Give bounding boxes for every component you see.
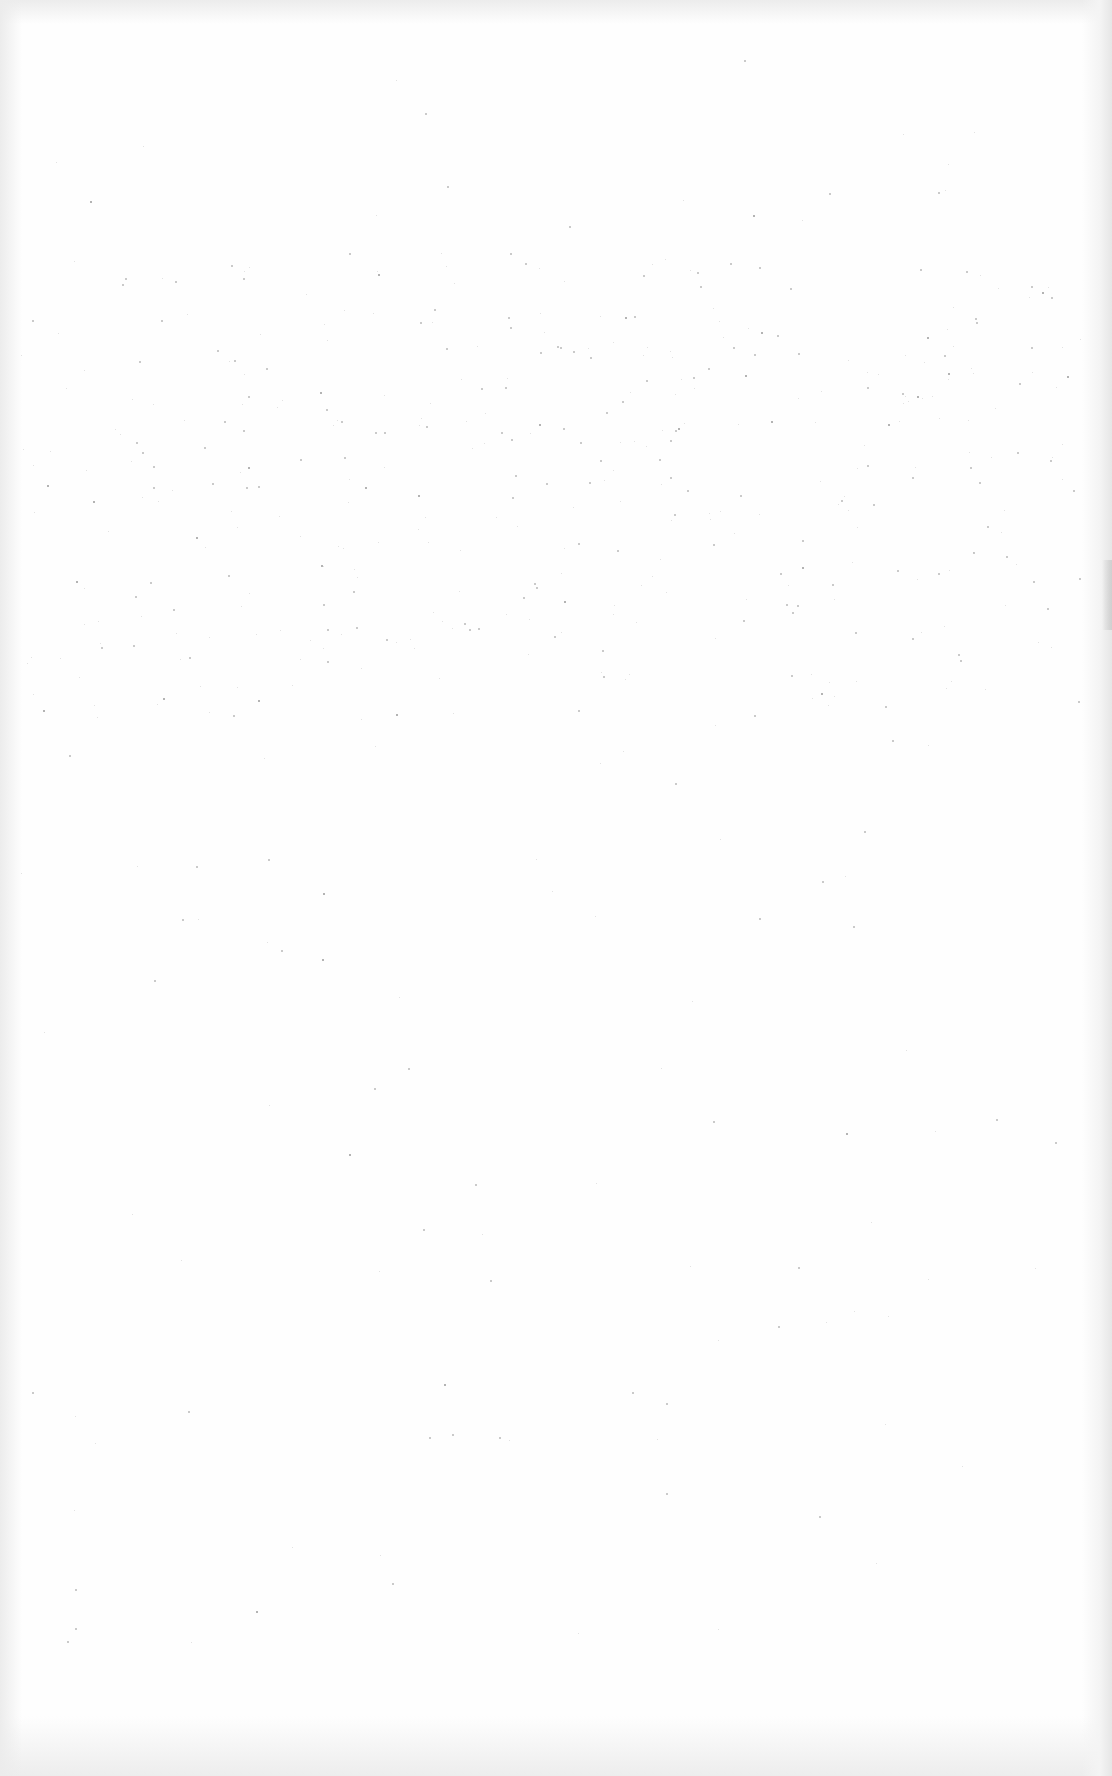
scan-edge-mark <box>1102 560 1112 630</box>
scan-edge-bottom <box>0 1716 1112 1776</box>
scan-edge-left <box>0 0 22 1776</box>
scan-edge-right <box>1082 0 1112 1776</box>
scan-edge-top <box>0 0 1112 24</box>
blank-scanned-page <box>0 0 1112 1776</box>
paper-speckle-noise <box>0 0 1112 1776</box>
